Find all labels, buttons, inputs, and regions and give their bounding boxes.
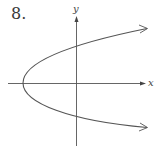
x-axis-label: x (148, 77, 154, 88)
y-axis-label: y (73, 3, 79, 14)
parabola-lower-branch (23, 83, 147, 128)
parabola-curve (85, 28, 147, 56)
y-axis (75, 16, 79, 146)
parabola-graph (0, 0, 156, 153)
x-axis-arrow-icon (140, 82, 146, 86)
y-axis-arrow-icon (75, 16, 79, 22)
parabola-upper-branch (23, 29, 147, 84)
x-axis (8, 82, 146, 86)
